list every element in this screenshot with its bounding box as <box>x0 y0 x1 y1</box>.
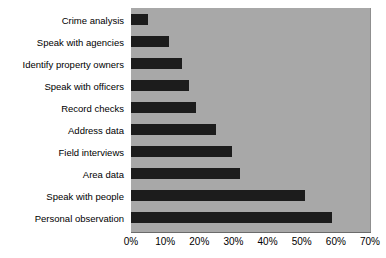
bar-record-checks <box>131 102 196 113</box>
bar-identify-property-owners <box>131 58 182 69</box>
x-tick-label: 60% <box>326 235 346 248</box>
x-tick-label: 40% <box>258 235 278 248</box>
category-label: Identify property owners <box>0 59 124 70</box>
category-label: Address data <box>0 125 124 136</box>
bar-address-data <box>131 124 216 135</box>
category-label: Field interviews <box>0 147 124 158</box>
cropped-title-remnant <box>0 0 386 6</box>
bar-area-data <box>131 168 240 179</box>
category-label: Area data <box>0 169 124 180</box>
x-tick-label: 0% <box>124 235 138 248</box>
bar-speak-with-agencies <box>131 36 169 47</box>
category-label: Crime analysis <box>0 15 124 26</box>
bar-field-interviews <box>131 146 232 157</box>
bar-crime-analysis <box>131 14 148 25</box>
plot-area <box>131 8 371 232</box>
category-label: Personal observation <box>0 213 124 224</box>
x-tick-label: 70% <box>360 235 380 248</box>
category-axis-labels: Crime analysis Speak with agencies Ident… <box>0 8 128 232</box>
x-tick-label: 10% <box>155 235 175 248</box>
bar-speak-with-officers <box>131 80 189 91</box>
x-tick-label: 20% <box>189 235 209 248</box>
category-label: Record checks <box>0 103 124 114</box>
category-label: Speak with people <box>0 191 124 202</box>
x-tick-label: 30% <box>223 235 243 248</box>
bar-personal-observation <box>131 212 332 223</box>
x-axis-tick-labels: 0% 10% 20% 30% 40% 50% 60% 70% <box>0 235 386 251</box>
bar-speak-with-people <box>131 190 305 201</box>
x-axis-line <box>131 232 371 233</box>
x-tick-label: 50% <box>292 235 312 248</box>
bar-chart: Crime analysis Speak with agencies Ident… <box>0 0 386 258</box>
category-label: Speak with agencies <box>0 37 124 48</box>
category-label: Speak with officers <box>0 81 124 92</box>
